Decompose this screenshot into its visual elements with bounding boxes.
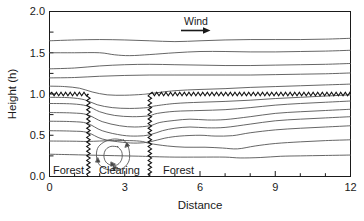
x-tick-label-0: 0: [46, 181, 52, 193]
wind-label: Wind: [184, 15, 208, 27]
y-tick-label-2: 1.0: [30, 88, 45, 100]
x-tick-label-1: 3: [122, 181, 128, 193]
streamline-contour-plot: 0.0 0.5 1.0 1.5 2.0 0 3 6 9 12 Distance …: [0, 0, 364, 221]
y-tick-label-1: 0.5: [30, 129, 45, 141]
x-tick-label-2: 6: [197, 181, 203, 193]
x-tick-label-4: 12: [344, 181, 356, 193]
figure-container: 0.0 0.5 1.0 1.5 2.0 0 3 6 9 12 Distance …: [0, 0, 364, 221]
x-tick-label-3: 9: [272, 181, 278, 193]
y-axis-title: Height (h): [6, 69, 18, 120]
plot-background: [0, 0, 364, 221]
forest-left-label: Forest: [53, 164, 84, 176]
clearing-label: Clearing: [99, 164, 140, 176]
y-tick-label-4: 2.0: [30, 5, 45, 17]
x-axis-title: Distance: [178, 199, 223, 211]
forest-right-label: Forest: [163, 164, 194, 176]
y-tick-label-3: 1.5: [30, 47, 45, 59]
y-tick-label-0: 0.0: [30, 170, 45, 182]
